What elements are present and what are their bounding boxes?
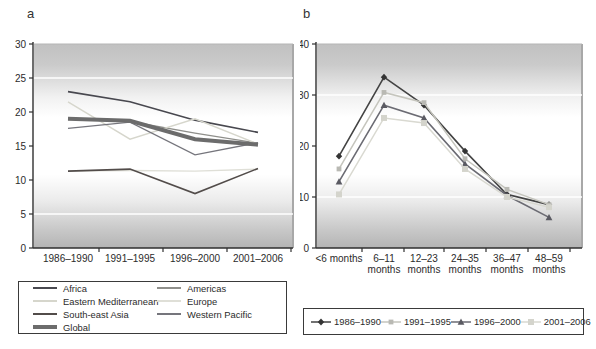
data-point-marker	[463, 156, 468, 161]
legend-item-eastern-mediterranean: Eastern Mediterranean	[33, 296, 157, 307]
legend-line-swatch	[33, 287, 57, 289]
data-point-marker	[421, 120, 427, 126]
legend-line-swatch	[33, 325, 57, 329]
legend-label: Americas	[187, 283, 226, 294]
legend-marker-swatch	[381, 317, 401, 327]
y-tick-label: 20	[15, 107, 27, 118]
y-tick-label: 15	[15, 141, 27, 152]
x-category-label: months	[491, 264, 524, 275]
data-point-marker	[422, 100, 427, 105]
legend-marker	[389, 319, 394, 324]
legend-item-americas: Americas	[157, 283, 282, 294]
legend-item-africa: Africa	[33, 283, 157, 294]
x-category-label: months	[449, 264, 482, 275]
x-category-label: 1996–2000	[170, 253, 220, 264]
y-tick-label: 40	[300, 39, 309, 50]
y-tick-label: 30	[300, 90, 309, 101]
y-tick-label: 10	[300, 192, 309, 203]
x-category-label: 12–23	[410, 253, 438, 264]
legend-marker	[528, 319, 534, 325]
x-category-label: 48–59	[535, 253, 563, 264]
data-point-marker	[337, 167, 342, 172]
x-category-label: 36–47	[493, 253, 521, 264]
legend-line-swatch	[157, 300, 181, 302]
legend-label: Europe	[187, 296, 217, 307]
legend-marker	[318, 318, 324, 325]
data-point-marker	[546, 204, 552, 210]
y-tick-label: 25	[15, 73, 27, 84]
x-category-label: 1986–1990	[43, 253, 93, 264]
data-point-marker	[504, 194, 510, 200]
legend-item-global: Global	[33, 322, 157, 333]
data-point-marker	[462, 166, 468, 172]
y-tick-label: 20	[300, 141, 309, 152]
legend-label: Africa	[63, 283, 87, 294]
legend-line-swatch	[157, 287, 181, 289]
x-category-label: 2001–2006	[233, 253, 283, 264]
figure: a b 0510152025301986–19901991–19951996–2…	[0, 0, 596, 349]
data-point-marker	[505, 187, 510, 192]
legend-line-swatch	[33, 300, 57, 302]
legend-item-1986-1990: 1986–1990	[311, 316, 381, 327]
x-category-label: 6–11	[373, 253, 395, 264]
y-tick-label: 10	[15, 175, 27, 186]
legend-line-swatch	[33, 313, 57, 315]
x-category-label: <6 months	[316, 253, 363, 264]
legend-item-2001-2006: 2001–2006	[521, 316, 591, 327]
legend-item-1996-2000: 1996–2000	[451, 316, 521, 327]
legend-label: South-east Asia	[63, 309, 129, 320]
y-tick-label: 30	[15, 39, 27, 50]
legend-label: 2001–2006	[544, 316, 591, 327]
x-category-label: months	[408, 264, 441, 275]
x-category-label: months	[533, 264, 566, 275]
y-tick-label: 0	[303, 243, 309, 254]
legend-line-swatch	[157, 313, 181, 315]
legend-label: 1996–2000	[474, 316, 521, 327]
y-tick-label: 0	[20, 243, 26, 254]
y-tick-label: 5	[20, 209, 26, 220]
legend-label: Global	[63, 322, 90, 333]
legend-marker-swatch	[521, 317, 541, 327]
panel-a-chart: 0510152025301986–19901991–19951996–20002…	[0, 0, 300, 278]
legend-marker-swatch	[311, 317, 331, 327]
legend-item-europe: Europe	[157, 296, 282, 307]
data-point-marker	[336, 191, 342, 197]
legend-item-south-east-asia: South-east Asia	[33, 309, 157, 320]
x-category-label: months	[368, 264, 401, 275]
x-category-label: 24–35	[451, 253, 479, 264]
panel-a-legend: AfricaAmericasEastern MediterraneanEurop…	[18, 281, 287, 334]
legend-marker-swatch	[451, 317, 471, 327]
panel-b-chart: 010203040<6 months6–11months12–23months2…	[300, 0, 596, 278]
legend-label: 1991–1995	[404, 316, 451, 327]
x-category-label: 1991–1995	[105, 253, 155, 264]
data-point-marker	[382, 90, 387, 95]
legend-label: Eastern Mediterranean	[63, 296, 158, 307]
legend-item-western-pacific: Western Pacific	[157, 309, 282, 320]
legend-label: 1986–1990	[334, 316, 381, 327]
legend-item-1991-1995: 1991–1995	[381, 316, 451, 327]
data-point-marker	[381, 115, 387, 121]
legend-label: Western Pacific	[187, 309, 252, 320]
panel-b-legend: 1986–19901991–19951996–20002001–2006	[303, 308, 584, 335]
